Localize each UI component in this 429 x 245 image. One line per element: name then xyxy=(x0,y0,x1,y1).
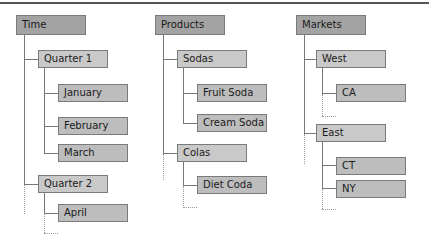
node-ca[interactable]: CA xyxy=(336,84,406,102)
connector xyxy=(24,35,25,184)
connector xyxy=(44,68,45,154)
connector xyxy=(183,162,184,186)
node-quarter-1[interactable]: Quarter 1 xyxy=(38,50,108,68)
connector xyxy=(44,126,58,127)
node-march[interactable]: March xyxy=(58,144,128,162)
connector xyxy=(44,153,58,154)
node-april[interactable]: April xyxy=(58,204,128,222)
connector-dotted xyxy=(322,116,336,117)
connector xyxy=(183,93,197,94)
node-markets[interactable]: Markets xyxy=(296,15,366,35)
connector xyxy=(44,192,45,213)
connector-dotted xyxy=(183,207,197,208)
node-february[interactable]: February xyxy=(58,117,128,135)
connector-dotted xyxy=(163,154,164,180)
connector xyxy=(24,184,38,185)
connector xyxy=(163,35,164,154)
connector xyxy=(163,59,177,60)
connector xyxy=(322,188,336,189)
node-diet-coda[interactable]: Diet Coda xyxy=(197,176,267,194)
node-products[interactable]: Products xyxy=(155,15,225,35)
connector-dotted xyxy=(44,213,45,233)
connector xyxy=(304,133,316,134)
connector xyxy=(24,59,39,60)
top-border xyxy=(0,2,429,4)
connector-dotted xyxy=(183,186,184,208)
connector-dotted xyxy=(44,233,58,234)
node-east[interactable]: East xyxy=(316,124,386,142)
node-ny[interactable]: NY xyxy=(336,180,406,198)
connector-dotted xyxy=(322,189,323,209)
connector-dotted xyxy=(322,209,336,210)
connector xyxy=(183,123,197,124)
node-cream-soda[interactable]: Cream Soda xyxy=(197,114,267,132)
connector-dotted xyxy=(24,184,25,214)
node-ct[interactable]: CT xyxy=(336,157,406,175)
connector xyxy=(183,185,197,186)
node-time[interactable]: Time xyxy=(16,15,86,35)
connector xyxy=(304,59,316,60)
connector-dotted xyxy=(304,134,305,164)
node-colas[interactable]: Colas xyxy=(177,144,247,162)
node-january[interactable]: January xyxy=(58,84,128,102)
connector xyxy=(322,165,336,166)
node-sodas[interactable]: Sodas xyxy=(177,50,247,68)
node-fruit-soda[interactable]: Fruit Soda xyxy=(197,84,267,102)
connector-dotted xyxy=(322,94,323,116)
connector xyxy=(183,68,184,124)
connector xyxy=(163,153,177,154)
connector xyxy=(44,93,58,94)
connector xyxy=(322,68,323,94)
connector xyxy=(44,213,58,214)
connector xyxy=(322,93,336,94)
node-west[interactable]: West xyxy=(316,50,386,68)
node-quarter-2[interactable]: Quarter 2 xyxy=(38,175,108,193)
connector xyxy=(304,35,305,134)
